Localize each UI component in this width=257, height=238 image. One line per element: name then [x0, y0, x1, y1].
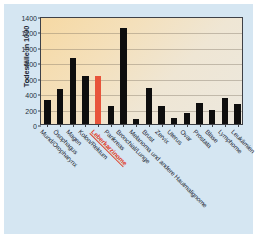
bar [57, 89, 63, 124]
bar [234, 104, 240, 124]
bar [120, 28, 126, 124]
y-tick-label: 600 [25, 76, 37, 83]
y-tick-mark [38, 126, 41, 127]
chart-figure: Todesfälle in 1000 020040060080010001200… [4, 4, 253, 234]
bar [44, 100, 50, 124]
x-tick-mark [47, 124, 48, 127]
y-tick-label: 0 [33, 123, 37, 130]
y-tick-label: 1000 [21, 45, 37, 52]
y-tick-label: 200 [25, 107, 37, 114]
x-tick-mark [60, 124, 61, 127]
x-tick-mark [98, 124, 99, 127]
bar [222, 98, 228, 124]
x-tick-mark [123, 124, 124, 127]
y-tick-label: 800 [25, 61, 37, 68]
plot-area: 0200400600800100012001400 [40, 17, 243, 125]
y-tick-label: 1400 [21, 15, 37, 22]
x-tick-mark [238, 124, 239, 127]
x-tick-mark [85, 124, 86, 127]
x-tick-mark [149, 124, 150, 127]
x-tick-mark [225, 124, 226, 127]
bar [158, 106, 164, 125]
bar [196, 103, 202, 124]
bar [184, 113, 190, 124]
x-tick-mark [174, 124, 175, 127]
bar [108, 106, 114, 124]
x-tick-mark [136, 124, 137, 127]
bar [70, 58, 76, 124]
bar [146, 88, 152, 124]
bar [95, 76, 101, 124]
y-tick-label: 1200 [21, 30, 37, 37]
bar-series [41, 18, 242, 124]
x-tick-mark [212, 124, 213, 127]
y-tick-label: 400 [25, 92, 37, 99]
bar [82, 76, 88, 124]
y-axis-title: Todesfälle in 1000 [22, 12, 31, 102]
x-tick-mark [73, 124, 74, 127]
x-tick-mark [111, 124, 112, 127]
x-tick-mark [162, 124, 163, 127]
bar [209, 110, 215, 124]
x-tick-mark [187, 124, 188, 127]
x-tick-mark [200, 124, 201, 127]
